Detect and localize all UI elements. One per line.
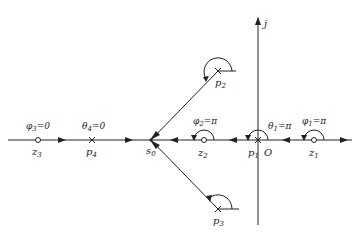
- zero-z1: [312, 138, 317, 143]
- zero-z2: [202, 138, 207, 143]
- real-axis-arrow: [340, 137, 348, 143]
- vector-p2-s0: [151, 71, 218, 140]
- test-point-s0: [149, 138, 152, 141]
- p2-label: p2: [215, 77, 226, 90]
- p1-label: p1: [248, 147, 259, 160]
- s0-label: s0: [146, 145, 156, 158]
- phi1-annotation: φ1=π: [302, 116, 327, 128]
- z1-label: z1: [308, 147, 319, 160]
- p2-angle-arc: [204, 58, 232, 79]
- phi3-annotation: φ3=0: [26, 121, 50, 133]
- z3-label: z3: [31, 146, 42, 159]
- theta1-annotation: θ1=π: [268, 121, 292, 133]
- phi2-annotation: φ2=π: [193, 116, 218, 128]
- root-locus-angle-diagram: j O z3 φ3=0 p4 θ4=0 s0 z2 φ2=π p1 θ1=π z…: [0, 0, 360, 245]
- theta4-annotation: θ4=0: [82, 121, 105, 133]
- z2-label: z2: [197, 147, 208, 160]
- imag-axis-label: j: [262, 18, 267, 29]
- p3-label: p3: [213, 215, 224, 228]
- zero-z3: [36, 138, 41, 143]
- p4-label: p4: [86, 146, 97, 159]
- vector-arrow-p1: [229, 137, 237, 143]
- p3-arc-arrow: [206, 195, 212, 202]
- vector-arrow-p4: [125, 137, 133, 143]
- origin-label: O: [264, 147, 272, 158]
- vector-arrow-z2: [170, 137, 178, 143]
- vector-arrow-z1: [282, 137, 290, 143]
- vector-arrow-z3: [58, 137, 66, 143]
